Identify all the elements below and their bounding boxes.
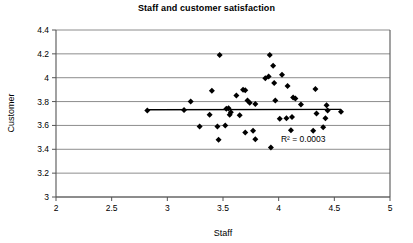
data-point-marker [322,115,328,121]
data-point-marker [271,80,277,86]
data-point-marker [242,130,248,136]
y-tick-label: 3 [44,192,49,202]
y-tick-label: 4.4 [37,25,49,35]
y-tick-label: 3.2 [37,168,49,178]
data-point-marker [314,111,320,117]
data-point-marker [325,108,331,114]
data-point-marker [250,128,256,134]
y-tick-label: 3.6 [37,120,49,130]
x-tick-label: 3 [165,203,170,213]
data-point-marker [214,124,220,130]
data-point-marker [237,112,243,118]
chart-container: Staff and customer satisfaction 22.533.5… [0,0,413,243]
data-point-marker [272,97,278,103]
data-point-marker [298,102,304,108]
data-point-marker [233,93,239,99]
data-point-marker [267,52,273,58]
data-point-marker [270,63,276,69]
data-point-marker [197,124,203,130]
x-tick-label: 4 [276,203,281,213]
data-point-marker [310,128,316,134]
data-point-marker [144,108,150,114]
data-point-marker [216,137,222,143]
data-point-marker [188,99,194,105]
data-point-marker [279,72,285,78]
y-tick-label: 4 [44,73,49,83]
r-squared-annotation: R² = 0.0003 [281,134,326,144]
x-tick-group: 22.533.544.55 [54,197,393,213]
data-point-marker [277,116,283,122]
data-point-marker [181,107,187,113]
x-tick-label: 5 [388,203,393,213]
data-point-marker [289,114,295,120]
data-point-marker [324,102,330,108]
y-axis-title: Customer [6,93,16,132]
data-point-marker [207,112,213,118]
scatter-plot: 22.533.544.55 33.23.43.63.844.24.4 Staff… [0,0,413,243]
y-tick-label: 3.8 [37,97,49,107]
data-point-marker [209,88,215,94]
x-tick-label: 2.5 [106,203,118,213]
data-point-marker [283,115,289,121]
y-tick-group: 33.23.43.63.844.24.4 [37,25,56,202]
data-point-marker [288,127,294,133]
data-point-marker [285,83,291,89]
data-point-marker [312,86,318,92]
y-tick-label: 4.2 [37,49,49,59]
x-axis-title: Staff [214,228,233,238]
x-tick-label: 2 [54,203,59,213]
x-tick-label: 4.5 [328,203,340,213]
data-point-marker [252,136,258,142]
data-point-marker [217,52,223,58]
data-point-marker [222,122,228,128]
y-tick-label: 3.4 [37,144,49,154]
x-tick-label: 3.5 [217,203,229,213]
